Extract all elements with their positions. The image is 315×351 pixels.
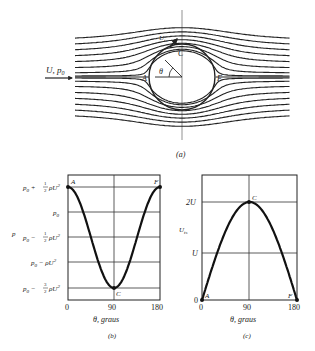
point-f-label-b: F bbox=[153, 178, 159, 186]
surface-velocity-label: Uts bbox=[159, 34, 167, 43]
panel-b-ylabel: p bbox=[11, 230, 16, 238]
point-a-marker-c bbox=[200, 298, 204, 302]
point-c-marker-c bbox=[247, 200, 251, 204]
panel-b-yticks: p0 + 1 2 ρU2 p0 p0 − 1 2 ρU2 p0 − ρU2 p0… bbox=[22, 181, 60, 294]
panel-c-ytick-2u: 2U bbox=[186, 198, 197, 207]
svg-text:p0: p0 bbox=[52, 209, 60, 218]
point-f-label-c: F bbox=[287, 292, 293, 300]
point-c-label: C bbox=[178, 49, 184, 58]
theta-label: θ bbox=[159, 67, 163, 76]
svg-text:ρU2: ρU2 bbox=[48, 233, 60, 242]
panel-c-chart: A F C 2U U 0 Uts 0 90 180 θ, graus (c) bbox=[179, 175, 300, 340]
panel-a-flow-diagram bbox=[75, 10, 290, 140]
svg-text:1: 1 bbox=[44, 231, 47, 236]
svg-text:2: 2 bbox=[44, 289, 47, 294]
inflow-label: U, p0 bbox=[46, 65, 65, 76]
panel-b-xtick-180: 180 bbox=[151, 303, 163, 312]
svg-text:p0 − ρU2: p0 − ρU2 bbox=[30, 258, 57, 268]
velocity-curve bbox=[202, 202, 297, 300]
panel-c-xtick-90: 90 bbox=[243, 303, 251, 312]
point-f-marker-c bbox=[295, 298, 299, 302]
point-f-label: F bbox=[216, 74, 222, 83]
panel-c-gridlines bbox=[202, 175, 297, 300]
panel-b-chart: A F C p0 + 1 2 ρU2 p0 p0 − 1 2 ρU2 p0 − … bbox=[11, 175, 163, 340]
point-a-label: A bbox=[141, 74, 147, 83]
panel-c-xlabel: θ, graus bbox=[230, 315, 256, 324]
svg-text:ρU2: ρU2 bbox=[48, 183, 60, 192]
panel-c-xtick-0: 0 bbox=[199, 303, 203, 312]
panel-c-frame bbox=[202, 175, 297, 300]
radius-line bbox=[165, 60, 182, 77]
panel-b-caption: (b) bbox=[108, 332, 117, 340]
point-c-label-b: C bbox=[116, 290, 121, 298]
panel-b-xtick-90: 90 bbox=[108, 303, 116, 312]
svg-text:2: 2 bbox=[44, 188, 47, 193]
panel-a-caption: (a) bbox=[176, 150, 186, 159]
svg-text:2: 2 bbox=[44, 238, 47, 243]
svg-text:1: 1 bbox=[44, 181, 47, 186]
panel-b-xtick-0: 0 bbox=[65, 303, 69, 312]
panel-c-ytick-0: 0 bbox=[194, 296, 198, 305]
point-a-label-c: A bbox=[204, 292, 210, 300]
svg-text:p0 +: p0 + bbox=[22, 184, 36, 193]
panel-b-gridlines bbox=[68, 175, 160, 300]
svg-text:3: 3 bbox=[44, 282, 47, 287]
panel-c-ytick-u: U bbox=[192, 249, 199, 258]
point-a-label-b: A bbox=[70, 178, 76, 186]
theta-arc bbox=[169, 68, 173, 77]
point-c-label-c: C bbox=[252, 194, 257, 202]
svg-text:ρU2: ρU2 bbox=[48, 284, 60, 293]
point-f-marker bbox=[158, 185, 162, 189]
point-a-marker bbox=[66, 185, 70, 189]
svg-text:p0 −: p0 − bbox=[22, 285, 36, 294]
panel-c-caption: (c) bbox=[243, 332, 251, 340]
panel-c-xtick-180: 180 bbox=[288, 303, 300, 312]
panel-b-xlabel: θ, graus bbox=[93, 315, 119, 324]
svg-text:p0 −: p0 − bbox=[22, 234, 36, 243]
panel-c-ylabel: Uts bbox=[179, 226, 187, 235]
